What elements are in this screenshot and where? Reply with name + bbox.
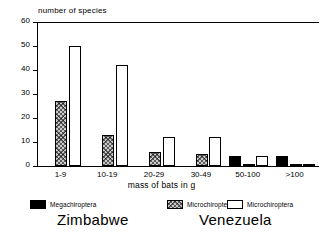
bar-1019-micro-venezuela: [116, 65, 128, 166]
y-tick-30: 30: [0, 94, 37, 95]
y-tick-label: 0: [26, 160, 30, 170]
y-tick-mark: [33, 46, 37, 47]
caption-venezuela: Venezuela: [199, 211, 272, 228]
y-tick-mark: [33, 70, 37, 71]
y-tick-60: 60: [0, 22, 37, 23]
legend-label: Megachiroptera: [50, 201, 97, 208]
plot-inner: [38, 22, 319, 166]
y-tick-label: 30: [21, 88, 30, 98]
y-tick-40: 40: [0, 70, 37, 71]
y-tick-0: 0: [0, 166, 37, 167]
bar-50100-micro-venezuela: [256, 156, 268, 166]
legend-entry-3: Microchiroptera: [227, 198, 293, 210]
bar-2029-micro-zimbabwe: [149, 152, 161, 166]
bar-3049-micro-venezuela: [209, 137, 221, 166]
x-tick-label-100: >100: [265, 170, 323, 180]
bat-species-bar-chart: number of species 6050403020100 1-910-19…: [0, 0, 323, 240]
y-tick-mark: [33, 94, 37, 95]
y-axis-title: number of species: [38, 6, 107, 15]
y-tick-label: 50: [21, 40, 30, 50]
bar-50100-micro-zimbabwe: [243, 164, 255, 166]
bar-100-micro-venezuela: [303, 164, 315, 166]
legend-label: Microchiroptera: [247, 201, 293, 208]
bar-19-micro-venezuela: [69, 46, 81, 166]
legend-entry-2: Microchiroptera: [167, 198, 233, 210]
bar-50100-mega-zimbabwe: [229, 156, 241, 166]
bar-2029-micro-venezuela: [163, 137, 175, 166]
hatched-gray-swatch: [167, 200, 183, 209]
solid-black-swatch: [30, 200, 46, 209]
y-tick-mark: [33, 142, 37, 143]
y-tick-mark: [33, 118, 37, 119]
y-tick-label: 60: [21, 16, 30, 26]
y-tick-label: 10: [21, 136, 30, 146]
plot-area: [37, 22, 319, 167]
y-tick-20: 20: [0, 118, 37, 119]
y-tick-mark: [33, 166, 37, 167]
y-tick-label: 20: [21, 112, 30, 122]
legend-entry-1: Megachiroptera: [30, 198, 97, 210]
y-tick-label: 40: [21, 64, 30, 74]
bar-100-micro-zimbabwe: [290, 164, 302, 166]
bar-19-micro-zimbabwe: [55, 101, 67, 166]
chart-legend: MegachiropteraMicrochiropteraMicrochirop…: [0, 198, 323, 212]
outline-white-swatch: [227, 200, 243, 209]
y-tick-50: 50: [0, 46, 37, 47]
bar-3049-micro-zimbabwe: [196, 154, 208, 166]
caption-zimbabwe: Zimbabwe: [57, 211, 129, 228]
y-tick-mark: [33, 22, 37, 23]
x-axis-title: mass of bats in g: [0, 180, 323, 190]
bar-100-mega-zimbabwe: [276, 156, 288, 166]
y-tick-10: 10: [0, 142, 37, 143]
bar-1019-micro-zimbabwe: [102, 135, 114, 166]
